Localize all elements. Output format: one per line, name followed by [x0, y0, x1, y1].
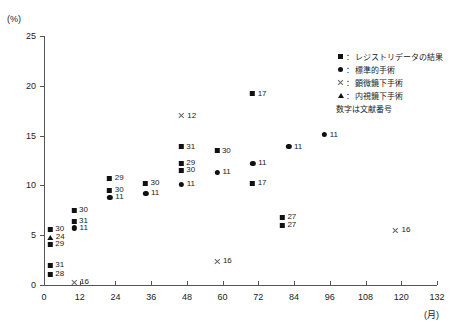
data-point-label: 29 — [55, 240, 64, 248]
legend-item-circle: ：標準的手術 — [336, 63, 454, 76]
data-point-label: 17 — [258, 90, 267, 98]
data-point-label: 27 — [287, 221, 296, 229]
circle-marker-icon — [179, 182, 185, 188]
x-tick-label: 24 — [103, 292, 127, 302]
x-tick-mark — [151, 281, 152, 285]
y-tick-label: 5 — [16, 230, 36, 240]
data-point: 17 — [250, 90, 266, 98]
legend-label: 顕微鏡下手術 — [355, 77, 403, 88]
x-tick-mark — [437, 281, 438, 285]
legend-note: 数字は文献番号 — [336, 103, 454, 114]
x-tick-mark — [44, 281, 45, 285]
square-marker-icon — [280, 223, 285, 228]
triangle-marker-icon — [338, 93, 344, 98]
data-point-label: 31 — [55, 261, 64, 269]
legend-label: 標準的手術 — [355, 64, 395, 75]
x-axis-line — [44, 285, 437, 286]
data-point-label: 17 — [258, 179, 267, 187]
legend-colon: ： — [346, 90, 354, 101]
cross-marker-icon — [337, 79, 344, 86]
cross-marker-icon — [213, 258, 220, 265]
legend-symbol — [336, 79, 345, 86]
data-point-label: 28 — [55, 270, 64, 278]
legend-colon: ： — [346, 64, 354, 75]
square-marker-icon — [107, 176, 112, 181]
legend-symbol — [336, 67, 345, 73]
x-tick-mark — [223, 281, 224, 285]
data-point-label: 11 — [115, 193, 123, 201]
x-tick-label: 48 — [175, 292, 199, 302]
y-tick-label: 10 — [16, 180, 36, 190]
x-tick-mark — [401, 281, 402, 285]
data-point: 24 — [47, 233, 64, 241]
data-point: 11 — [250, 159, 266, 167]
data-point: 11 — [107, 193, 123, 201]
x-tick-label: 120 — [389, 292, 413, 302]
data-point: 27 — [280, 221, 296, 229]
data-point: 16 — [213, 257, 231, 265]
data-point: 16 — [392, 226, 410, 234]
data-point-label: 30 — [186, 166, 195, 174]
x-tick-mark — [330, 281, 331, 285]
y-tick-mark — [40, 285, 44, 286]
x-tick-label: 12 — [68, 292, 92, 302]
x-tick-mark — [294, 281, 295, 285]
x-tick-label: 36 — [139, 292, 163, 302]
square-marker-icon — [250, 181, 255, 186]
triangle-marker-icon — [47, 235, 53, 240]
y-tick-label: 0 — [16, 280, 36, 290]
square-marker-icon — [179, 168, 184, 173]
square-marker-icon — [338, 54, 343, 59]
data-point: 28 — [48, 270, 64, 278]
data-point: 17 — [250, 179, 266, 187]
square-marker-icon — [48, 263, 53, 268]
x-tick-mark — [115, 281, 116, 285]
circle-marker-icon — [250, 161, 256, 167]
legend-symbol — [336, 54, 345, 59]
legend-item-cross: ：顕微鏡下手術 — [336, 76, 454, 89]
y-tick-label: 15 — [16, 131, 36, 141]
square-marker-icon — [250, 91, 255, 96]
x-tick-mark — [187, 281, 188, 285]
circle-marker-icon — [143, 191, 149, 197]
chart-legend: ：レジストリデータの結果：標準的手術：顕微鏡下手術：内視鏡下手術 数字は文献番号 — [336, 50, 454, 114]
data-point: 12 — [178, 112, 196, 120]
y-tick-mark — [40, 235, 44, 236]
cross-marker-icon — [392, 227, 399, 234]
y-axis-unit-label: (%) — [7, 14, 21, 24]
data-point: 31 — [179, 143, 195, 151]
legend-item-square: ：レジストリデータの結果 — [336, 50, 454, 63]
x-tick-label: 108 — [354, 292, 378, 302]
circle-marker-icon — [338, 67, 344, 73]
data-point: 29 — [48, 240, 64, 248]
data-point: 29 — [107, 174, 123, 182]
square-marker-icon — [179, 144, 184, 149]
square-marker-icon — [143, 181, 148, 186]
y-tick-label: 25 — [16, 31, 36, 41]
data-point-label: 11 — [330, 131, 338, 139]
square-marker-icon — [107, 188, 112, 193]
x-tick-mark — [366, 281, 367, 285]
square-marker-icon — [48, 242, 53, 247]
data-point: 30 — [72, 206, 88, 214]
data-point-label: 30 — [222, 147, 231, 155]
circle-marker-icon — [214, 170, 220, 176]
y-tick-label: 20 — [16, 81, 36, 91]
y-tick-mark — [40, 86, 44, 87]
data-point-label: 16 — [223, 257, 232, 265]
x-tick-label: 72 — [246, 292, 270, 302]
y-axis-line — [44, 36, 45, 286]
x-tick-label: 132 — [425, 292, 449, 302]
data-point-label: 11 — [151, 189, 159, 197]
data-point: 11 — [286, 143, 302, 151]
square-marker-icon — [48, 227, 53, 232]
cross-marker-icon — [71, 279, 78, 286]
data-point-label: 31 — [186, 143, 195, 151]
scatter-chart: (%) (月) 0510152025 012243648607284961081… — [0, 0, 459, 329]
data-point: 30 — [214, 147, 230, 155]
data-point: 11 — [214, 168, 230, 176]
legend-colon: ： — [346, 51, 354, 62]
data-point-label: 12 — [187, 112, 196, 120]
legend-label: 内視鏡下手術 — [355, 90, 403, 101]
square-marker-icon — [179, 161, 184, 166]
